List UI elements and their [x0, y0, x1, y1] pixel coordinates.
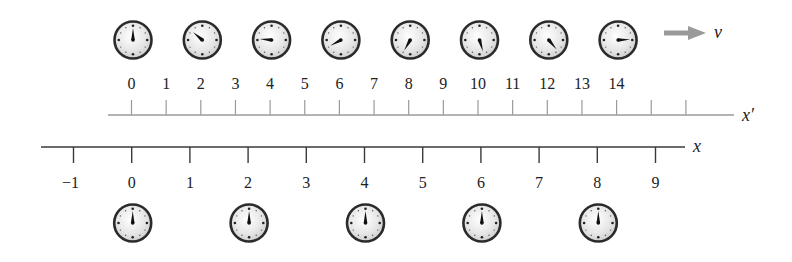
moving-frame-clocks [115, 22, 637, 59]
x-prime-tick-label: 0 [128, 75, 136, 92]
rest-frame: x −10123456789 [41, 136, 701, 242]
x-prime-tick-label: 12 [539, 75, 555, 92]
x-tick-label: 3 [302, 174, 310, 191]
rest-clock-icon [580, 205, 617, 242]
x-tick-label: 9 [652, 174, 660, 191]
x-prime-tick-label: 7 [370, 75, 378, 92]
moving-frame: v 01234567891011121314 x′ [108, 22, 755, 126]
rest-clock-icon [114, 205, 151, 242]
moving-clock-icon [600, 22, 637, 59]
x-tick-label: 8 [593, 174, 601, 191]
x-prime-tick-label: 13 [574, 75, 590, 92]
moving-clock-icon [392, 22, 429, 59]
x-prime-tick-label: 14 [609, 75, 625, 92]
x-prime-tick-label: 3 [231, 75, 239, 92]
x-prime-tick-label: 11 [505, 75, 520, 92]
x-tick-label: 2 [244, 174, 252, 191]
moving-clock-icon [322, 22, 359, 59]
x-tick-label: −1 [62, 174, 79, 191]
moving-clock-icon [184, 22, 221, 59]
x-tick-label: 5 [419, 174, 427, 191]
velocity-label: v [714, 22, 722, 42]
x-tick-label: 4 [361, 174, 369, 191]
moving-clock-icon [530, 22, 567, 59]
x-tick-label: 1 [186, 174, 194, 191]
x-prime-tick-label: 4 [266, 75, 274, 92]
arrow-head-icon [688, 26, 706, 40]
diagram-canvas: v 01234567891011121314 x′ x −10123456789 [0, 0, 792, 262]
moving-clock-icon [461, 22, 498, 59]
rest-clock-icon [463, 205, 500, 242]
moving-clock-icon [115, 22, 152, 59]
moving-axis-ticks: 01234567891011121314 [128, 75, 686, 115]
x-prime-tick-label: 6 [335, 75, 343, 92]
rest-frame-clocks [114, 205, 617, 242]
x-axis-label: x [692, 136, 701, 156]
x-tick-label: 0 [128, 174, 136, 191]
relativity-clocks-diagram: v 01234567891011121314 x′ x −10123456789 [0, 0, 792, 262]
velocity-arrow: v [664, 22, 722, 42]
x-prime-tick-label: 2 [197, 75, 205, 92]
x-prime-tick-label: 5 [301, 75, 309, 92]
moving-clock-icon [253, 22, 290, 59]
x-prime-tick-label: 1 [162, 75, 170, 92]
rest-axis-ticks: −10123456789 [62, 147, 660, 191]
x-prime-tick-label: 10 [470, 75, 486, 92]
x-tick-label: 6 [477, 174, 485, 191]
x-prime-axis-label: x′ [741, 105, 755, 125]
x-tick-label: 7 [535, 174, 543, 191]
rest-clock-icon [347, 205, 384, 242]
x-prime-tick-label: 8 [405, 75, 413, 92]
rest-clock-icon [231, 205, 268, 242]
x-prime-tick-label: 9 [439, 75, 447, 92]
